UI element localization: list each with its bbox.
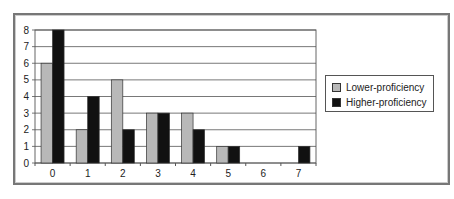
bar-lower [111,80,123,163]
bar-lower [217,146,229,163]
y-tick-label: 5 [23,74,29,85]
bar-lower [146,113,158,163]
y-tick-label: 0 [23,158,29,169]
x-tick-label: 0 [50,168,56,179]
x-tick-label: 4 [190,168,196,179]
legend: Lower-proficiency Higher-proficiency [325,75,434,112]
legend-swatch-lower [332,83,341,92]
legend-item-higher: Higher-proficiency [332,97,427,108]
x-tick-label: 7 [296,168,302,179]
legend-swatch-higher [332,98,341,107]
bar-higher [53,30,65,163]
bar-higher [123,130,135,163]
x-tick-label: 2 [120,168,126,179]
bar-higher [158,113,170,163]
bar-higher [193,130,205,163]
y-tick-label: 2 [23,124,29,135]
bar-higher [228,146,240,163]
legend-item-lower: Lower-proficiency [332,82,424,93]
x-tick-label: 1 [85,168,91,179]
y-tick-label: 8 [23,25,29,36]
y-tick-label: 1 [23,141,29,152]
x-tick-label: 5 [225,168,231,179]
y-tick-label: 7 [23,41,29,52]
bar-higher [298,146,310,163]
y-tick-label: 3 [23,108,29,119]
y-tick-label: 6 [23,58,29,69]
x-tick-label: 3 [155,168,161,179]
bar-higher [88,97,100,164]
legend-label-higher: Higher-proficiency [346,97,427,108]
bar-lower [182,113,194,163]
legend-label-lower: Lower-proficiency [346,82,424,93]
bar-lower [41,63,53,163]
y-tick-label: 4 [23,91,29,102]
bar-lower [76,130,88,163]
x-tick-label: 6 [261,168,267,179]
